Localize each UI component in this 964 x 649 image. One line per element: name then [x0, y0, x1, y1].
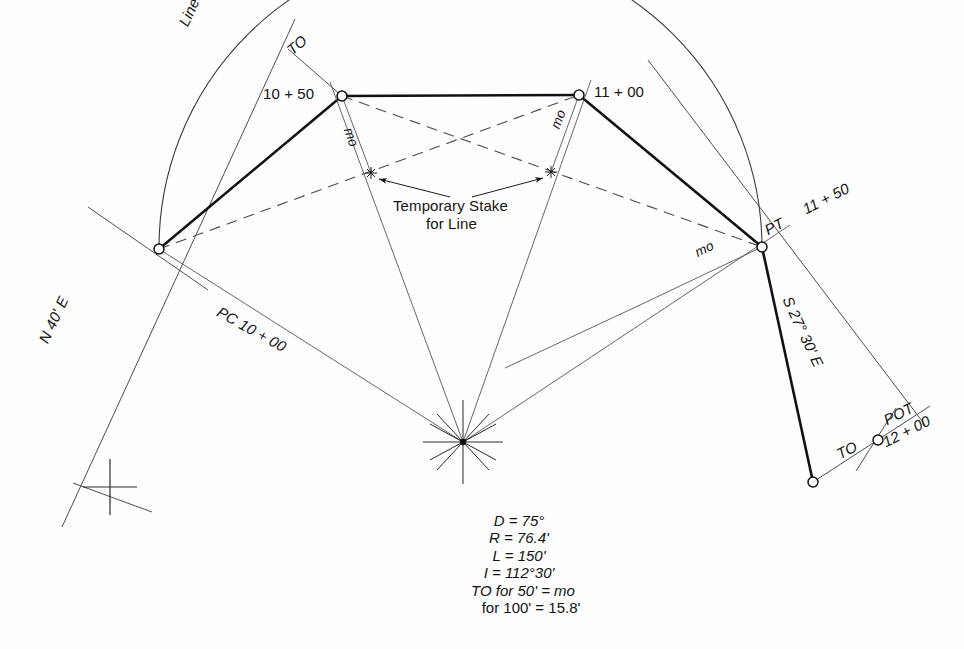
label-temporary-stake-line1: Temporary Stake	[393, 198, 508, 214]
leader-to-left-stake	[379, 179, 450, 197]
formula-to-for-100: for 100' = 15.8'	[398, 599, 648, 616]
chord-pt-to-to-point	[762, 247, 813, 482]
mo-line-pt-extension	[505, 305, 640, 368]
chord-lines-heavy	[159, 95, 813, 482]
tangent-cross-marker	[83, 459, 137, 515]
stake-marker-left	[365, 167, 377, 179]
node-pt[interactable]	[757, 242, 767, 252]
offset-construction-lines	[342, 95, 762, 368]
station-nodes	[154, 90, 883, 487]
radial-lines	[159, 80, 790, 442]
node-station-11-00[interactable]	[574, 90, 584, 100]
chord-1100-to-pt	[579, 95, 762, 247]
formula-to-for-50: TO for 50' = mo	[398, 582, 648, 599]
back-tangent-line	[62, 19, 295, 527]
formula-length: L = 150'	[398, 547, 648, 564]
label-station-10-50: 10 + 50	[263, 86, 314, 102]
formula-degree-of-curve: D = 75°	[398, 512, 648, 529]
leader-lines	[379, 178, 543, 197]
radius-center-to-pt	[463, 225, 790, 442]
center-radius-point	[423, 400, 503, 484]
node-pc[interactable]	[154, 244, 164, 254]
leader-to-right-stake	[472, 178, 543, 197]
mo-line-right	[551, 95, 579, 172]
label-station-11-00: 11 + 00	[594, 84, 644, 100]
label-temporary-stake-line2: for Line	[426, 216, 477, 232]
node-to-bottom[interactable]	[808, 477, 818, 487]
chord-pc-to-1050	[159, 96, 342, 249]
radius-center-to-pc	[159, 249, 463, 442]
survey-curve-diagram: Line of Tangent TO 10 + 50 11 + 00 mo mo…	[0, 0, 964, 649]
stake-marker-right	[545, 166, 557, 178]
curve-formula-block: D = 75° R = 76.4' L = 150' I = 112°30' T…	[398, 512, 648, 616]
chord-1050-to-1100	[342, 95, 579, 96]
node-station-10-50[interactable]	[337, 91, 347, 101]
forward-tangent-line	[648, 60, 925, 425]
radius-center-to-1100	[463, 80, 591, 442]
formula-radius: R = 76.4'	[398, 529, 648, 546]
formula-intersection-angle: I = 112°30'	[398, 564, 648, 581]
dashed-pc-to-1100	[159, 95, 579, 249]
stake-markers	[365, 166, 557, 179]
